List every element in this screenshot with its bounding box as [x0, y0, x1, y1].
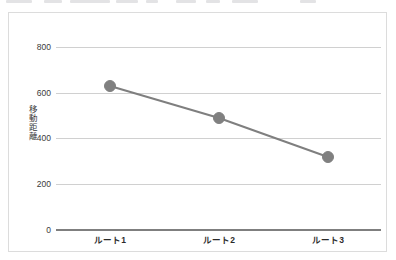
chart-container: 800 600 400 200 0 移動距離 ルート1 ルート2 ルート3 [8, 12, 387, 252]
data-point-route-1[interactable] [105, 81, 116, 92]
toolbar-ghost-item [146, 0, 158, 3]
y-tick-label-0: 0 [46, 225, 51, 235]
y-tick-label-400: 400 [37, 133, 51, 143]
toolbar-ghost-item [6, 0, 32, 3]
y-axis-title: 移動距離 [27, 104, 37, 141]
line-chart: 800 600 400 200 0 移動距離 ルート1 ルート2 ルート3 [9, 13, 386, 251]
y-tick-label-800: 800 [37, 42, 51, 52]
x-category-label-1: ルート1 [94, 235, 126, 245]
toolbar-ghost-item [232, 0, 258, 3]
truncated-toolbar-strip [0, 0, 396, 9]
y-tick-label-200: 200 [37, 179, 51, 189]
toolbar-ghost-item [44, 0, 62, 3]
toolbar-ghost-item [300, 0, 316, 3]
x-category-label-3: ルート3 [312, 235, 344, 245]
toolbar-ghost-item [70, 0, 110, 3]
plot-background [9, 13, 386, 251]
y-tick-label-600: 600 [37, 88, 51, 98]
toolbar-ghost-item [176, 0, 196, 3]
toolbar-ghost-item [206, 0, 220, 3]
data-point-route-3[interactable] [323, 152, 334, 163]
x-category-label-2: ルート2 [203, 235, 235, 245]
data-point-route-2[interactable] [214, 113, 225, 124]
toolbar-ghost-item [116, 0, 138, 3]
